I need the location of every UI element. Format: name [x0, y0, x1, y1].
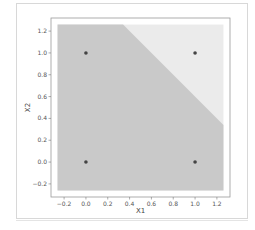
decision-boundary-chart: −0.20.00.20.40.60.81.01.2 −0.20.00.20.40… [0, 0, 255, 230]
x-tick-label: 0.6 [147, 200, 157, 207]
data-point [84, 51, 88, 55]
y-tick-label: 0.2 [37, 136, 47, 143]
x-tick-label: 1.2 [212, 200, 222, 207]
x-tick-label: 1.0 [190, 200, 200, 207]
x-tick-label: −0.2 [57, 200, 72, 207]
data-point [193, 160, 197, 164]
decision-regions [58, 25, 224, 191]
divider [16, 220, 248, 221]
y-tick-label: −0.2 [32, 180, 47, 187]
y-tick-label: 0.4 [37, 114, 47, 121]
data-point [193, 51, 197, 55]
y-axis-label: X2 [24, 103, 32, 112]
y-tick-label: 0.0 [37, 158, 47, 165]
y-tick-label: 0.8 [37, 71, 47, 78]
y-tick-label: 1.0 [37, 49, 47, 56]
y-axis-ticks: −0.20.00.20.40.60.81.01.2 [32, 27, 51, 187]
x-tick-label: 0.0 [81, 200, 91, 207]
x-axis-label: X1 [136, 207, 145, 215]
data-point [84, 160, 88, 164]
x-tick-label: 0.4 [125, 200, 135, 207]
y-tick-label: 1.2 [37, 27, 47, 34]
x-tick-label: 0.2 [103, 200, 113, 207]
x-tick-label: 0.8 [168, 200, 178, 207]
y-tick-label: 0.6 [37, 93, 47, 100]
x-axis-ticks: −0.20.00.20.40.60.81.01.2 [57, 197, 222, 207]
